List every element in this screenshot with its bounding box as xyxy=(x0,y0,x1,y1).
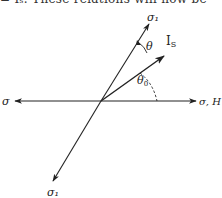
theta0-label-sub: 0 xyxy=(144,80,148,88)
sigma1-bottom-label: σ₁ xyxy=(47,186,59,198)
is-vector-label: IS xyxy=(166,34,176,49)
sigma1-axis-lower xyxy=(53,101,101,181)
theta0-label: θ0 xyxy=(137,74,148,88)
sigma1-axis-upper xyxy=(101,24,149,101)
stress-vector-diagram: σ₁ IS θ θ0 σ σ, H σ₁ xyxy=(0,0,222,198)
sigma1-top-label: σ₁ xyxy=(147,11,159,24)
sigma-left-label: σ xyxy=(2,95,10,108)
sigma-h-right-label: σ, H xyxy=(199,96,221,107)
theta-label: θ xyxy=(146,40,153,53)
is-vector xyxy=(101,56,164,101)
is-vector-label-sub: S xyxy=(171,40,176,49)
